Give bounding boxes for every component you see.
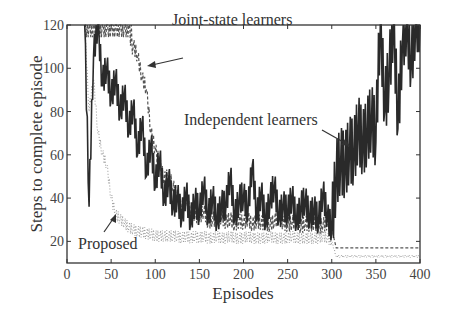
plot-area <box>85 25 420 257</box>
y-tick-label: 40 <box>50 191 64 206</box>
arrow-icon <box>147 58 183 68</box>
y-tick-label: 80 <box>50 105 64 120</box>
y-tick-label: 20 <box>50 234 64 249</box>
y-tick-label: 60 <box>50 148 64 163</box>
x-tick-label: 50 <box>104 267 118 282</box>
arrow-icon <box>104 214 116 232</box>
x-tick-label: 250 <box>277 267 298 282</box>
y-tick-label: 120 <box>43 18 64 33</box>
x-tick-label: 150 <box>189 267 210 282</box>
series-independent-learners <box>85 25 420 241</box>
x-tick-label: 200 <box>233 267 254 282</box>
x-tick-label: 100 <box>145 267 166 282</box>
annotation-proposed: Proposed <box>78 235 138 253</box>
x-tick-label: 400 <box>410 267 431 282</box>
x-tick-label: 0 <box>64 267 71 282</box>
y-tick-label: 100 <box>43 61 64 76</box>
y-axis-title: Steps to complete episode <box>27 55 46 232</box>
x-tick-label: 350 <box>365 267 386 282</box>
annotation-joint-state-learners: Joint-state learners <box>172 11 292 28</box>
line-chart: 050100150200250300350400 20406080100120 … <box>0 0 459 317</box>
annotation-independent-learners: Independent learners <box>184 111 318 129</box>
x-axis-title: Episodes <box>212 284 273 303</box>
x-tick-label: 300 <box>321 267 342 282</box>
